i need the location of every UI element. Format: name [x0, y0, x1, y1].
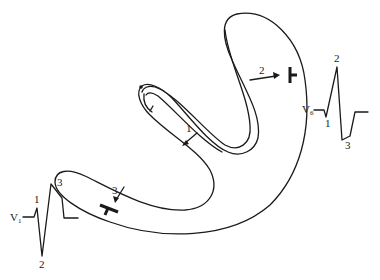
svg-text:3: 3 — [112, 184, 118, 196]
origin-dot — [139, 85, 143, 89]
branch-tick — [150, 106, 153, 111]
vector-2-arrow: 2 — [250, 64, 280, 80]
ecg-lead-v1: V1 1 2 3 — [10, 176, 78, 270]
svg-text:1: 1 — [186, 122, 192, 134]
svg-text:2: 2 — [334, 52, 340, 64]
conduction-diagram: 1 2 3 V1 1 2 3 V6 1 2 3 — [0, 0, 380, 280]
septum-inner-line-a — [142, 30, 250, 148]
ecg-lead-v6: V6 1 2 3 — [302, 52, 368, 151]
vector-3-arrow: 3 — [112, 184, 124, 203]
electrode-v6-marker — [290, 67, 297, 83]
svg-text:V6: V6 — [302, 103, 314, 117]
svg-text:2: 2 — [39, 258, 45, 270]
svg-text:3: 3 — [57, 176, 63, 188]
svg-text:1: 1 — [34, 193, 40, 205]
ventricle-outer-outline — [55, 13, 307, 234]
svg-text:2: 2 — [259, 64, 265, 76]
svg-text:V1: V1 — [10, 211, 22, 225]
vector-1-arrow: 1 — [182, 122, 197, 146]
svg-text:3: 3 — [345, 139, 351, 151]
svg-text:1: 1 — [325, 117, 331, 129]
electrode-v1-marker — [100, 205, 118, 215]
